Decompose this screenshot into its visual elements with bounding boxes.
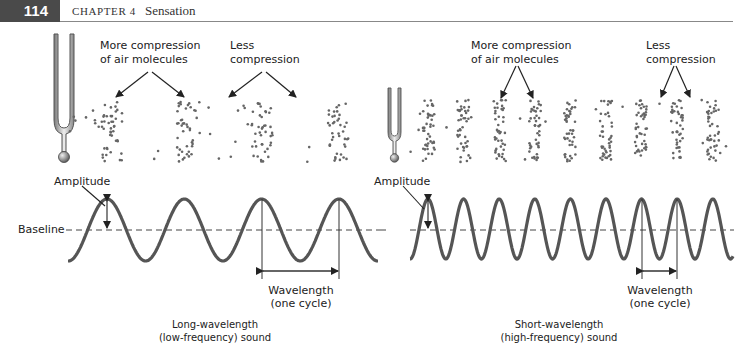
caption-line: Short-wavelength — [484, 318, 634, 331]
wavelength-label-left: Wavelength (one cycle) — [262, 284, 340, 310]
label-line: (one cycle) — [622, 297, 698, 310]
amplitude-label-right: Amplitude — [374, 175, 430, 189]
wave-right — [410, 199, 733, 259]
label-line: of air molecules — [471, 53, 572, 67]
caption-line: (high-frequency) sound — [484, 331, 634, 344]
compression-arrows-left — [116, 72, 296, 97]
caption-right: Short-wavelength (high-frequency) sound — [484, 318, 634, 344]
less-compression-label-left: Less compression — [230, 39, 300, 67]
caption-line: Long-wavelength — [140, 318, 290, 331]
label-line: Less — [646, 39, 716, 53]
label-line: Wavelength — [622, 284, 698, 297]
more-compression-label-left: More compression of air molecules — [100, 39, 201, 67]
baseline-label: Baseline — [18, 223, 65, 237]
tuning-fork-left-icon — [54, 34, 74, 163]
label-line: of air molecules — [100, 53, 201, 67]
less-compression-label-right: Less compression — [646, 39, 716, 67]
air-molecules-left — [69, 101, 350, 163]
wavelength-label-right: Wavelength (one cycle) — [622, 284, 698, 310]
caption-left: Long-wavelength (low-frequency) sound — [140, 318, 290, 344]
label-line: (one cycle) — [262, 297, 340, 310]
label-line: compression — [646, 53, 716, 67]
label-line: More compression — [471, 39, 572, 53]
more-compression-label-right: More compression of air molecules — [471, 39, 572, 67]
compression-arrows-right — [501, 66, 690, 98]
amplitude-marker-left — [82, 186, 107, 228]
label-line: compression — [230, 53, 300, 67]
amplitude-label-left: Amplitude — [54, 175, 110, 189]
label-line: Wavelength — [262, 284, 340, 297]
air-molecules-right — [409, 99, 727, 163]
label-line: Less — [230, 39, 300, 53]
caption-line: (low-frequency) sound — [140, 331, 290, 344]
tuning-fork-right-icon — [388, 88, 401, 162]
label-line: More compression — [100, 39, 201, 53]
